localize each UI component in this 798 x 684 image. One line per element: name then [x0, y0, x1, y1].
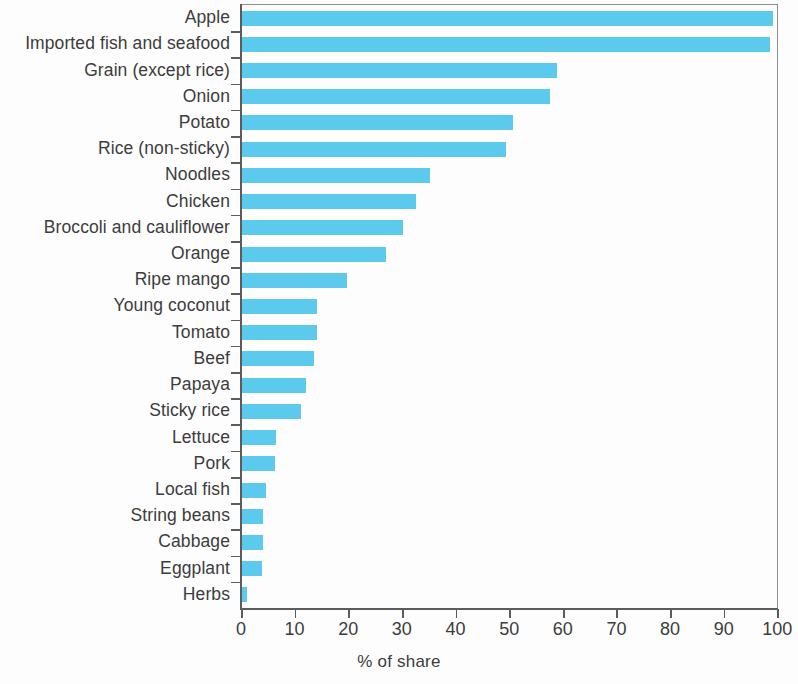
x-axis-tick-label: 20 — [338, 620, 358, 638]
bar-row: Broccoli and cauliflower — [0, 215, 798, 241]
bar-category-label: Pork — [194, 455, 230, 473]
x-axis-spine — [240, 608, 778, 610]
bar-category-label: Lettuce — [172, 429, 230, 447]
bar-segment — [242, 194, 416, 209]
y-axis-tick — [231, 162, 241, 164]
y-axis-tick — [231, 57, 241, 59]
x-axis-tick — [777, 609, 779, 618]
bar-row: Eggplant — [0, 556, 798, 582]
x-axis-tick-label: 80 — [660, 620, 680, 638]
bar-row: Ripe mango — [0, 267, 798, 293]
x-axis-tick-label: 40 — [446, 620, 466, 638]
x-axis-tick — [509, 609, 511, 618]
bar-row: Local fish — [0, 477, 798, 503]
y-axis-tick — [231, 320, 241, 322]
x-axis-tick-label: 70 — [606, 620, 626, 638]
bar-category-label: Local fish — [155, 481, 230, 499]
plot-frame-top — [240, 4, 778, 5]
x-axis-tick-label: 0 — [236, 620, 246, 638]
bar-category-label: Apple — [185, 9, 230, 27]
y-axis-tick — [231, 424, 241, 426]
bar-segment — [242, 325, 317, 340]
bar-category-label: String beans — [131, 507, 230, 525]
bar-row: Imported fish and seafood — [0, 31, 798, 57]
bar-segment — [242, 63, 557, 78]
bar-row: Noodles — [0, 162, 798, 188]
bar-category-label: Imported fish and seafood — [25, 35, 230, 53]
x-axis-tick — [295, 609, 297, 618]
y-axis-tick — [231, 84, 241, 86]
bar-segment — [242, 142, 506, 157]
x-axis-tick — [402, 609, 404, 618]
bar-row: Sticky rice — [0, 398, 798, 424]
bar-row: String beans — [0, 503, 798, 529]
y-axis-tick — [231, 477, 241, 479]
x-axis-tick — [241, 609, 243, 618]
bar-row: Papaya — [0, 372, 798, 398]
bar-segment — [242, 535, 263, 550]
bar-category-label: Beef — [194, 350, 230, 368]
bar-category-label: Grain (except rice) — [84, 62, 230, 80]
bar-row: Orange — [0, 241, 798, 267]
y-axis-tick — [231, 241, 241, 243]
bar-segment — [242, 115, 513, 130]
bar-segment — [242, 37, 770, 52]
bar-segment — [242, 456, 275, 471]
x-axis-tick — [456, 609, 458, 618]
y-axis-tick — [231, 293, 241, 295]
y-axis-tick — [231, 136, 241, 138]
bar-row: Cabbage — [0, 529, 798, 555]
x-axis-title: % of share — [0, 652, 798, 672]
bar-row: Grain (except rice) — [0, 57, 798, 83]
y-axis-tick — [231, 189, 241, 191]
bar-row: Rice (non-sticky) — [0, 136, 798, 162]
bar-segment — [242, 168, 430, 183]
bar-segment — [242, 351, 314, 366]
bar-row: Lettuce — [0, 424, 798, 450]
bar-category-label: Broccoli and cauliflower — [44, 219, 230, 237]
bar-category-label: Herbs — [183, 586, 230, 604]
x-axis-tick-label: 50 — [499, 620, 519, 638]
bar-category-label: Rice (non-sticky) — [98, 140, 230, 158]
bar-segment — [242, 299, 317, 314]
bar-segment — [242, 378, 306, 393]
bar-category-label: Sticky rice — [149, 402, 230, 420]
bar-row: Herbs — [0, 582, 798, 608]
bar-category-label: Chicken — [166, 193, 230, 211]
y-axis-tick — [231, 372, 241, 374]
y-axis-tick — [231, 529, 241, 531]
bar-category-label: Young coconut — [114, 297, 230, 315]
bar-row: Beef — [0, 346, 798, 372]
bar-category-label: Orange — [171, 245, 230, 263]
bar-category-label: Noodles — [165, 166, 230, 184]
bar-category-label: Papaya — [170, 376, 230, 394]
bar-segment — [242, 404, 301, 419]
bar-row: Potato — [0, 110, 798, 136]
x-axis-tick — [724, 609, 726, 618]
bar-row: Pork — [0, 451, 798, 477]
bar-row: Onion — [0, 84, 798, 110]
y-axis-tick — [231, 31, 241, 33]
y-axis-spine — [240, 4, 242, 610]
x-axis-tick-label: 30 — [392, 620, 412, 638]
bar-category-label: Ripe mango — [135, 271, 230, 289]
x-axis-tick — [563, 609, 565, 618]
bar-category-label: Eggplant — [160, 560, 230, 578]
bar-segment — [242, 509, 263, 524]
y-axis-tick — [231, 398, 241, 400]
bar-rows: AppleImported fish and seafoodGrain (exc… — [0, 5, 798, 608]
x-axis-tick — [348, 609, 350, 618]
bar-segment — [242, 247, 386, 262]
bar-segment — [242, 220, 403, 235]
x-axis-tick-label: 100 — [762, 620, 792, 638]
y-axis-tick — [231, 556, 241, 558]
x-axis-tick-label: 90 — [714, 620, 734, 638]
bar-category-label: Tomato — [172, 324, 230, 342]
y-axis-tick — [231, 451, 241, 453]
y-axis-tick — [231, 582, 241, 584]
bar-row: Apple — [0, 5, 798, 31]
x-axis-tick-label: 10 — [285, 620, 305, 638]
y-axis-tick — [231, 346, 241, 348]
bar-segment — [242, 273, 347, 288]
bar-row: Chicken — [0, 189, 798, 215]
